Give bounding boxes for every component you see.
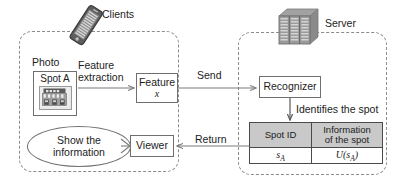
feature-node-variable: x: [155, 89, 159, 100]
spot-table-header-information-line2: of the spot: [325, 134, 369, 145]
photo-caption: Photo: [32, 57, 59, 69]
shop-photo-icon: [39, 86, 72, 110]
photo-card-label: Spot A: [40, 73, 69, 84]
spot-table-wrapper: Spot ID Information of the spot sA U(sA): [249, 122, 383, 164]
viewer-node-label: Viewer: [136, 140, 168, 151]
spot-table-cell-information: U(sA): [312, 148, 383, 164]
spot-id-subscript: A: [280, 154, 285, 163]
spot-table-cell-spot-id: sA: [250, 148, 312, 164]
recognizer-node-label: Recognizer: [263, 81, 316, 92]
feature-extraction-line1: Feature: [78, 59, 114, 71]
info-prefix: U(s: [336, 149, 350, 160]
feature-node: Feature x: [136, 73, 178, 103]
send-label: Send: [197, 70, 222, 82]
show-information-line2: information: [53, 146, 105, 158]
clients-group-label: Clients: [102, 9, 134, 21]
viewer-node: Viewer: [130, 135, 174, 157]
feature-extraction-label: Feature extraction: [78, 60, 138, 84]
spot-table: Spot ID Information of the spot sA U(sA): [249, 122, 383, 164]
spot-table-header-row: Spot ID Information of the spot: [250, 123, 383, 148]
identifies-label: Identifies the spot: [296, 104, 378, 116]
recognizer-node: Recognizer: [259, 76, 321, 98]
feature-node-label: Feature: [139, 77, 175, 88]
photo-card: Spot A: [33, 71, 77, 116]
show-information-text: Show the information: [53, 135, 105, 159]
spot-table-header-information-line1: Information: [323, 124, 371, 135]
spot-table-header-information: Information of the spot: [312, 123, 383, 148]
server-rack-icon: [276, 6, 322, 48]
spot-table-header-spot-id: Spot ID: [250, 123, 312, 148]
table-row: sA U(sA): [250, 148, 383, 164]
feature-extraction-line2: extraction: [78, 71, 124, 83]
server-group-label: Server: [325, 18, 356, 30]
diagram-canvas: Clients: [0, 0, 406, 185]
show-information-ellipse: Show the information: [27, 126, 131, 167]
info-suffix: ): [355, 149, 358, 160]
return-label: Return: [195, 134, 227, 146]
show-information-line1: Show the: [57, 134, 101, 146]
